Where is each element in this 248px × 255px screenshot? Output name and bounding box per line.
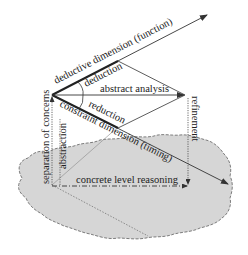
label-separation-of-concerns: separation of concerns (40, 90, 51, 184)
label-refinement: refinement (190, 96, 201, 142)
diagram-canvas: deductive dimension (function) deduction… (0, 0, 248, 255)
label-abstraction: abstraction (57, 122, 68, 169)
label-concrete-level-reasoning: concrete level reasoning (76, 174, 179, 185)
deduction-angle-arc (78, 82, 83, 95)
label-abstract-analysis: abstract analysis (100, 83, 169, 94)
label-deductive-dimension: deductive dimension (function) (52, 15, 175, 86)
edge-lower-right (118, 95, 185, 128)
